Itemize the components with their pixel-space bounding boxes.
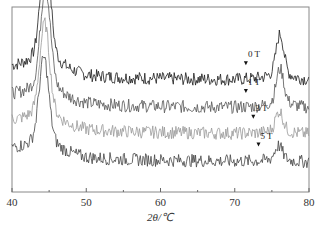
series-label: 5 T — [261, 131, 274, 141]
arrow-marker-icon — [244, 61, 248, 65]
xrd-chart: 4050607080 0 T1 T3 T5 T 2θ/℃ — [0, 0, 319, 229]
series-label: 0 T — [248, 49, 261, 59]
series-label: 3 T — [255, 103, 268, 113]
x-axis: 4050607080 — [7, 188, 316, 208]
x-tick-label: 50 — [81, 196, 93, 208]
x-axis-label: 2θ/℃ — [147, 211, 175, 223]
x-tick-label: 40 — [7, 196, 19, 208]
arrow-marker-icon — [257, 143, 261, 147]
series-1t — [12, 0, 309, 113]
series-label: 1 T — [248, 77, 261, 87]
arrow-marker-icon — [244, 89, 248, 93]
x-tick-label: 60 — [155, 196, 167, 208]
arrow-marker-icon — [251, 115, 255, 119]
x-tick-label: 80 — [304, 196, 316, 208]
plot-frame — [12, 7, 309, 192]
plot-area — [12, 0, 309, 168]
x-tick-label: 70 — [229, 196, 241, 208]
series-0t — [12, 0, 309, 85]
